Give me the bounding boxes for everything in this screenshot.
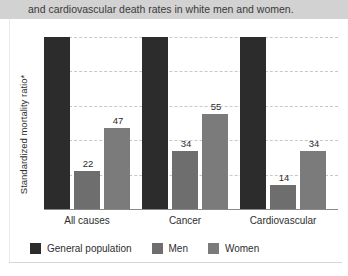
bar	[44, 37, 70, 209]
bar	[142, 37, 168, 209]
legend-swatch-icon	[152, 243, 163, 254]
legend-label: General population	[47, 243, 132, 254]
figure: and cardiovascular death rates in white …	[0, 0, 348, 276]
bar-group: 2247	[44, 37, 142, 209]
bar-series-container: 224734551434	[44, 37, 338, 209]
bar	[172, 151, 198, 209]
bar	[270, 185, 296, 209]
legend-swatch-icon	[30, 243, 41, 254]
plot-area: 020406080100 224734551434	[44, 37, 338, 209]
legend-item: Men	[152, 243, 188, 254]
bar-value-label: 34	[181, 138, 192, 149]
caption-band: and cardiovascular death rates in white …	[0, 0, 348, 19]
x-axis-tick-label: All causes	[64, 215, 110, 226]
legend: General populationMenWomen	[30, 243, 272, 254]
x-axis-tick-label: Cardiovascular	[250, 215, 317, 226]
legend-swatch-icon	[208, 243, 219, 254]
x-axis-tick-label: Cancer	[169, 215, 201, 226]
bar-value-label: 47	[113, 115, 124, 126]
legend-label: Men	[169, 243, 188, 254]
bar	[300, 151, 326, 209]
bar-chart: Standardized mortality ratio* 0204060801…	[0, 19, 348, 263]
legend-item: General population	[30, 243, 132, 254]
bar-value-label: 22	[83, 158, 94, 169]
bar-value-label: 34	[309, 138, 320, 149]
legend-item: Women	[208, 243, 259, 254]
bar-value-label: 55	[211, 101, 222, 112]
y-axis-title: Standardized mortality ratio*	[18, 50, 29, 220]
bar-group: 3455	[142, 37, 240, 209]
bar	[104, 128, 130, 209]
bar	[74, 171, 100, 209]
bar	[202, 114, 228, 209]
legend-label: Women	[225, 243, 259, 254]
caption-text: and cardiovascular death rates in white …	[28, 2, 294, 17]
x-axis-line	[44, 209, 338, 210]
bar-value-label: 14	[279, 172, 290, 183]
bar-group: 1434	[240, 37, 338, 209]
bar	[240, 37, 266, 209]
